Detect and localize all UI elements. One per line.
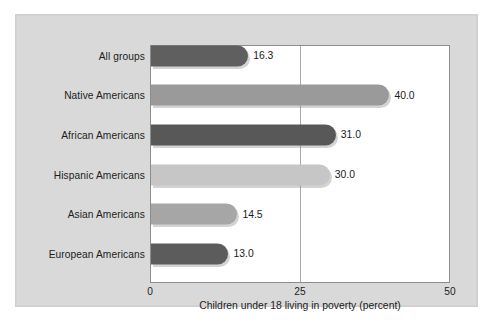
bar-european-americans[interactable] [151, 243, 228, 264]
category-label: Hispanic Americans [54, 169, 145, 180]
bar-row[interactable]: Native Americans 40.0 [16, 76, 493, 116]
bar-row[interactable]: European Americans 13.0 [16, 234, 493, 274]
bar-value-label: 14.5 [237, 209, 262, 220]
bar-row[interactable]: Hispanic Americans 30.0 [16, 155, 493, 195]
bar-value-label: 31.0 [336, 129, 361, 140]
bar-value-label: 40.0 [389, 90, 414, 101]
xtick-25: 25 [294, 286, 305, 297]
bar-row[interactable]: African Americans 31.0 [16, 115, 493, 155]
xtick-50: 50 [444, 286, 455, 297]
bar-value-label: 16.3 [248, 50, 273, 61]
bar-african-americans[interactable] [151, 124, 336, 145]
xtick-0: 0 [147, 286, 153, 297]
bar-hispanic-americans[interactable] [151, 164, 330, 185]
bar-all-groups[interactable] [151, 45, 248, 66]
bar-row[interactable]: All groups 16.3 [16, 36, 493, 76]
category-label: Native Americans [64, 90, 145, 101]
bar-value-label: 13.0 [228, 248, 253, 259]
figure: All groups 16.3 Native Americans 40.0 Af… [0, 0, 493, 325]
category-label: African Americans [61, 129, 145, 140]
chart-panel: All groups 16.3 Native Americans 40.0 Af… [15, 14, 478, 307]
category-label: Asian Americans [68, 209, 145, 220]
category-label: European Americans [49, 248, 145, 259]
bar-asian-americans[interactable] [151, 204, 237, 225]
bar-value-label: 30.0 [330, 169, 355, 180]
bar-native-americans[interactable] [151, 85, 389, 106]
category-label: All groups [99, 50, 145, 61]
bar-row[interactable]: Asian Americans 14.5 [16, 194, 493, 234]
x-axis-title: Children under 18 living in poverty (per… [150, 300, 450, 311]
